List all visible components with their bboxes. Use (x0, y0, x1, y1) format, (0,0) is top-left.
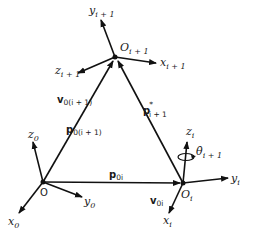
yi-axis (183, 178, 228, 183)
label-zi: zi (185, 125, 195, 140)
vector-p0i1 (43, 61, 113, 182)
label-p0i: p0i (109, 169, 123, 182)
yi1-axis (101, 20, 115, 57)
label-y0: y0 (83, 195, 95, 210)
xi1-axis (115, 57, 156, 63)
vector-p0i (43, 182, 180, 183)
zi1-axis (78, 57, 115, 73)
label-z0: z0 (27, 128, 39, 143)
label-oi1: Oi + 1 (120, 41, 148, 56)
label-zi1: zi + 1 (54, 64, 80, 79)
frame-0-axes (19, 142, 82, 213)
label-yi: yi (230, 172, 240, 187)
label-v0i: v0i (150, 195, 163, 208)
label-p0i1: p0(i + 1) (66, 124, 102, 137)
z0-axis (33, 142, 43, 182)
point-oi1 (113, 55, 118, 60)
label-yi1: yi + 1 (88, 4, 115, 19)
y0-axis (43, 182, 82, 197)
label-x0: x0 (8, 215, 19, 230)
zi-axis (183, 142, 187, 183)
label-theta-dot: θ̇i + 1 (196, 145, 222, 160)
label-xi1: xi + 1 (160, 56, 186, 71)
point-origin (41, 180, 46, 185)
label-oi: Oi (181, 188, 193, 203)
label-xi: xi (163, 214, 172, 229)
label-v0i1: v0(i + 1) (57, 94, 92, 107)
vector-pstar (118, 61, 183, 183)
label-origin: O (40, 187, 48, 198)
point-oi (181, 181, 186, 186)
kinematic-diagram: z0 y0 x0 O p0i v0i p0(i + 1) v0(i + 1) p… (0, 0, 253, 241)
